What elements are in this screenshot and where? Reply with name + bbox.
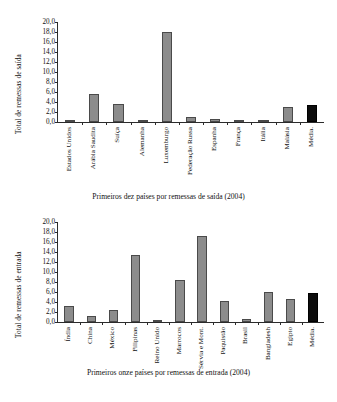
outward-xtick-mark <box>251 122 252 125</box>
bar-inward-5 <box>175 280 184 323</box>
outward-ytick-label: 20,0 <box>42 18 55 26</box>
inward-ytick-mark <box>55 242 58 243</box>
bar-inward-0 <box>64 306 73 322</box>
x-axis-labels-inward: ÍndiaChinaMéxicoFilipinasReino UnidoMarr… <box>57 327 324 389</box>
chart-inward-remittances: Total de remessas de entrada 0,02,04,06,… <box>0 200 337 402</box>
x-label-outward-2: Suíça <box>113 127 121 143</box>
outward-ytick-label: 10,0 <box>42 68 55 76</box>
bar-inward-3 <box>131 255 140 323</box>
inward-ytick-mark <box>55 302 58 303</box>
inward-xtick-mark <box>213 322 214 325</box>
inward-xtick-mark <box>280 322 281 325</box>
outward-ytick-mark <box>55 122 58 123</box>
bar-outward-7 <box>234 120 244 122</box>
outward-ytick-mark <box>55 62 58 63</box>
outward-xtick-mark <box>300 122 301 125</box>
bar-outward-5 <box>186 117 196 122</box>
outward-xtick-mark <box>276 122 277 125</box>
inward-ytick-label: 8,0 <box>46 278 55 286</box>
inward-xtick-mark <box>80 322 81 325</box>
x-label-outward-8: Itália <box>259 127 267 142</box>
remittances-figure: Total de remessas de saída 0,02,04,06,08… <box>0 0 337 402</box>
x-label-inward-10: Egipto <box>286 327 294 346</box>
y-axis-title-inward: Total de remessas de entrada <box>14 216 23 338</box>
inward-xtick-mark <box>235 322 236 325</box>
inward-ytick-mark <box>55 252 58 253</box>
bars-inward <box>58 222 324 322</box>
bar-outward-9 <box>283 107 293 123</box>
outward-ytick-label: 8,0 <box>46 78 55 86</box>
outward-ytick-label: 18,0 <box>42 28 55 36</box>
bar-inward-7 <box>220 301 229 322</box>
outward-ytick-label: 0,0 <box>46 118 55 126</box>
plot-area-inward <box>57 222 324 323</box>
outward-xtick-mark <box>203 122 204 125</box>
x-label-inward-8: Brasil <box>241 327 249 344</box>
inward-ytick-mark <box>55 282 58 283</box>
bar-outward-2 <box>113 104 123 123</box>
inward-ytick-label: 18,0 <box>42 228 55 236</box>
y-axis-title-outward: Total de remessas de saída <box>14 14 23 134</box>
outward-ytick-mark <box>55 112 58 113</box>
outward-ytick-mark <box>55 102 58 103</box>
outward-ytick-mark <box>55 52 58 53</box>
caption-inward: Primeiros onze países por remessas de en… <box>0 368 337 377</box>
inward-ytick-label: 16,0 <box>42 238 55 246</box>
inward-ytick-mark <box>55 232 58 233</box>
inward-xtick-mark <box>147 322 148 325</box>
x-label-outward-10: Média. <box>307 127 315 147</box>
outward-ytick-label: 4,0 <box>46 98 55 106</box>
y-axis-ticks-outward: 0,02,04,06,08,010,012,014,016,018,020,0 <box>31 22 55 122</box>
chart-outward-remittances: Total de remessas de saída 0,02,04,06,08… <box>0 0 337 200</box>
inward-ytick-label: 12,0 <box>42 258 55 266</box>
inward-ytick-label: 2,0 <box>46 308 55 316</box>
x-label-inward-0: Índia <box>64 327 72 342</box>
inward-ytick-mark <box>55 222 58 223</box>
x-label-outward-1: Arábia Saudita <box>89 127 97 169</box>
y-axis-ticks-inward: 0,02,04,06,08,010,012,014,016,018,020,0 <box>31 222 55 322</box>
inward-xtick-mark <box>125 322 126 325</box>
x-label-outward-5: Federação Russa <box>186 127 194 175</box>
outward-xtick-mark <box>131 122 132 125</box>
outward-ytick-mark <box>55 92 58 93</box>
inward-ytick-mark <box>55 292 58 293</box>
bar-inward-8 <box>242 319 251 323</box>
bar-outward-0 <box>65 120 75 122</box>
outward-xtick-mark <box>155 122 156 125</box>
bar-outward-1 <box>89 94 99 122</box>
bar-outward-8 <box>258 120 268 122</box>
inward-ytick-mark <box>55 312 58 313</box>
inward-ytick-label: 6,0 <box>46 288 55 296</box>
outward-xtick-mark <box>106 122 107 125</box>
outward-ytick-label: 2,0 <box>46 108 55 116</box>
bars-outward <box>58 22 324 122</box>
x-label-outward-6: Espanha <box>210 127 218 151</box>
bar-outward-10 <box>307 105 317 122</box>
outward-ytick-label: 14,0 <box>42 48 55 56</box>
plot-area-outward <box>57 22 324 123</box>
bar-outward-3 <box>138 120 148 123</box>
x-label-outward-0: Estados Unidos <box>65 127 73 171</box>
x-label-inward-9: Bangladesh <box>264 327 272 360</box>
outward-ytick-mark <box>55 32 58 33</box>
inward-ytick-mark <box>55 272 58 273</box>
bar-inward-9 <box>264 292 273 323</box>
outward-ytick-mark <box>55 22 58 23</box>
inward-ytick-label: 10,0 <box>42 268 55 276</box>
x-label-outward-3: Alemanha <box>138 127 146 156</box>
inward-ytick-label: 14,0 <box>42 248 55 256</box>
bar-inward-6 <box>197 236 206 323</box>
bar-inward-4 <box>153 320 162 322</box>
bar-outward-4 <box>162 32 172 122</box>
inward-ytick-label: 20,0 <box>42 218 55 226</box>
inward-ytick-mark <box>55 262 58 263</box>
x-label-outward-7: França <box>234 127 242 146</box>
outward-ytick-mark <box>55 72 58 73</box>
x-label-inward-7: Paquistão <box>219 327 227 355</box>
outward-ytick-label: 16,0 <box>42 38 55 46</box>
outward-ytick-mark <box>55 82 58 83</box>
x-label-inward-11: Média. <box>308 327 316 347</box>
bar-inward-1 <box>87 316 96 322</box>
outward-xtick-mark <box>227 122 228 125</box>
bar-inward-2 <box>109 310 118 323</box>
